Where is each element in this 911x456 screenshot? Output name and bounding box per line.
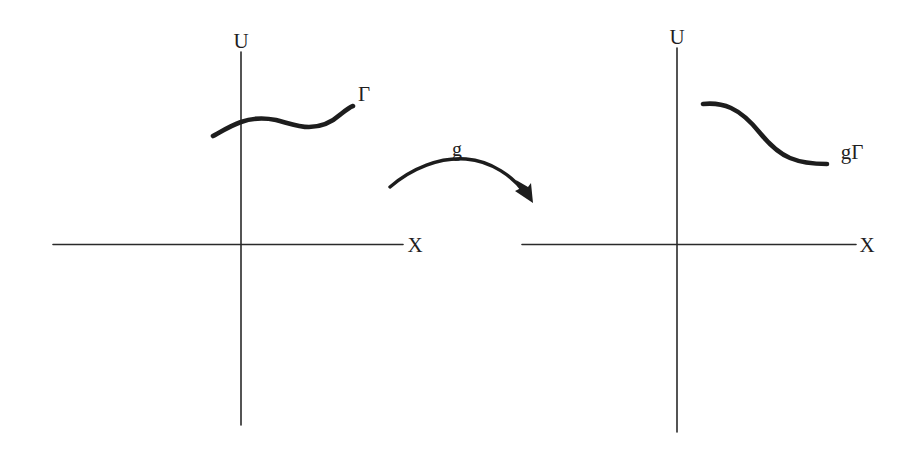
curve-gamma-label: Γ [358, 82, 370, 106]
curve-g-gamma-label: gΓ [841, 140, 864, 164]
left-panel-group [53, 52, 403, 425]
diagram-canvas: U X Γ g U X gΓ [0, 0, 911, 456]
right-panel-group [522, 48, 856, 432]
left-x-axis-label: X [407, 233, 422, 257]
left-u-axis-label: U [233, 29, 248, 53]
g-map-label: g [452, 138, 462, 161]
g-arrow-shaft [390, 159, 524, 192]
map-arrow-group [390, 159, 533, 203]
math-diagram-svg: U X Γ g U X gΓ [0, 0, 911, 456]
curve-g-gamma [703, 104, 827, 164]
right-x-axis-label: X [859, 233, 874, 257]
right-u-axis-label: U [669, 25, 684, 49]
curve-gamma [213, 106, 353, 136]
